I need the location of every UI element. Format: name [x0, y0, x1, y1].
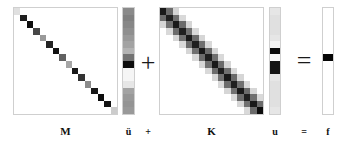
matrix-M-heatmap	[13, 7, 118, 115]
vector-f-heatmap	[322, 7, 334, 115]
label-udd: ü	[121, 127, 136, 137]
matrix-M-canvas	[14, 8, 117, 114]
label-M: M	[13, 126, 118, 137]
label-plus: +	[138, 127, 158, 137]
vector-u-heatmap	[269, 7, 281, 115]
vector-u-canvas	[270, 8, 280, 114]
vector-udd-heatmap	[122, 7, 135, 115]
label-f: f	[321, 127, 335, 137]
matrix-K-canvas	[160, 8, 263, 114]
label-K: K	[159, 126, 264, 137]
plus-operator: +	[138, 50, 158, 76]
label-u: u	[268, 127, 282, 137]
vector-udd-canvas	[123, 8, 134, 114]
equation-figure: M ü + + K u = = f	[0, 0, 350, 141]
vector-f-canvas	[323, 8, 333, 114]
label-equals: =	[293, 127, 315, 137]
equals-operator: =	[293, 48, 315, 74]
matrix-K-heatmap	[159, 7, 264, 115]
